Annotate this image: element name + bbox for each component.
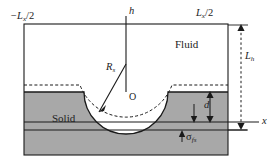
interface-thickness-label: σfs xyxy=(186,132,196,144)
right-boundary-label: Lx/2 xyxy=(196,8,213,20)
x-axis-label: x xyxy=(262,116,267,127)
fluid-region-label: Fluid xyxy=(175,39,198,50)
h-axis-label: h xyxy=(129,6,134,17)
origin-label: O xyxy=(129,92,136,102)
box-height-dimension xyxy=(237,24,244,130)
solid-region-label: Solid xyxy=(52,113,75,124)
depth-label: d xyxy=(204,100,209,111)
box-height-label: Lh xyxy=(245,51,254,63)
schematic-figure xyxy=(0,0,279,167)
left-boundary-label: −Lx/2 xyxy=(10,11,34,23)
cavity-radius-label: Rs xyxy=(106,62,115,74)
